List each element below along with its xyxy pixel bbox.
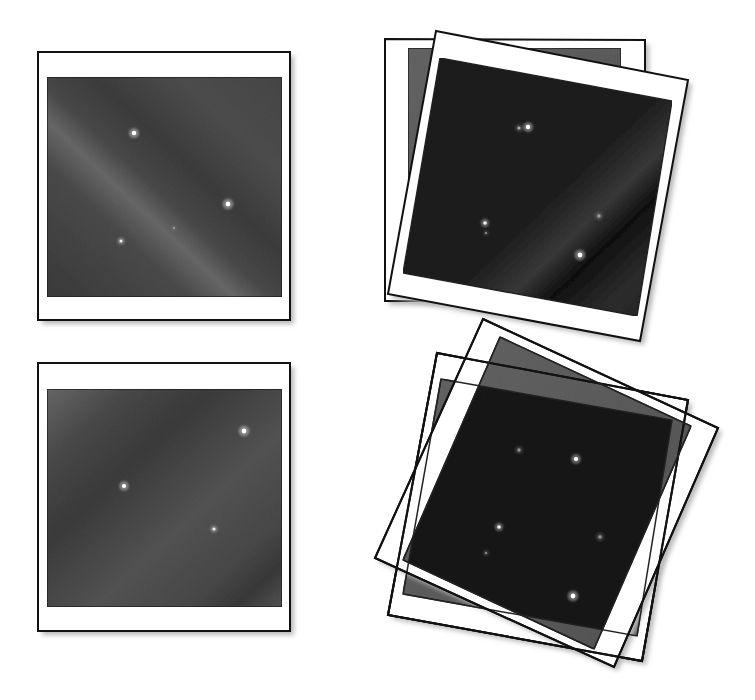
image-frame (388, 31, 692, 345)
star (578, 253, 583, 258)
star (173, 227, 175, 229)
star (485, 552, 488, 555)
image-frame (38, 363, 294, 635)
star (526, 125, 530, 129)
star (517, 126, 520, 129)
sky-image (47, 77, 282, 297)
star (212, 527, 215, 530)
star (483, 221, 487, 225)
star (122, 484, 126, 488)
star (571, 594, 576, 599)
star (485, 232, 487, 234)
top-left-single-frame (38, 52, 294, 324)
star (574, 457, 578, 461)
bottom-right-stacked-frames (375, 319, 722, 671)
star (497, 525, 501, 529)
star (517, 448, 520, 451)
star (226, 202, 231, 207)
panels-layer (38, 31, 722, 671)
star (119, 239, 122, 242)
star (132, 131, 136, 135)
star (598, 535, 602, 539)
diagram-canvas (0, 0, 755, 700)
bottom-left-single-frame (38, 363, 294, 635)
star (597, 214, 600, 217)
sky-image (403, 58, 672, 316)
image-frame (38, 52, 294, 324)
top-right-stacked-frames (385, 31, 692, 345)
star (242, 429, 247, 434)
sky-image (47, 389, 282, 607)
